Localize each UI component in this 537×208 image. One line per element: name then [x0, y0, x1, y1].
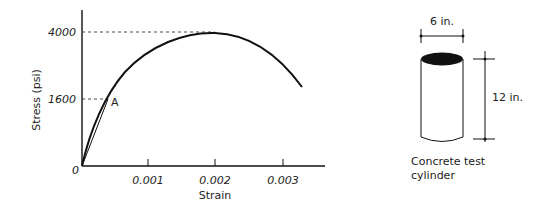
caption-line-2: cylinder — [411, 169, 455, 182]
x-tick-label-0.001: 0.001 — [132, 174, 164, 187]
y-axis-label: Stress (psi) — [30, 69, 43, 131]
y-tick-label-1600: 1600 — [48, 93, 76, 106]
concrete-cylinder-diagram: 6 in. 12 in. Concrete test cylinder — [411, 15, 523, 182]
width-label: 6 in. — [430, 15, 454, 28]
y-tick-label-4000: 4000 — [48, 26, 76, 39]
x-tick-label-0.002: 0.002 — [199, 174, 231, 187]
x-tick-label-0.003: 0.003 — [267, 174, 299, 187]
origin-label: 0 — [72, 164, 79, 177]
x-axis-label: Strain — [199, 189, 232, 202]
point-a-label: A — [111, 96, 119, 109]
caption-line-1: Concrete test — [411, 155, 486, 168]
figure: 4000 1600 0 0.001 0.002 0.003 A Strain S… — [0, 0, 537, 208]
secant-line — [82, 99, 108, 166]
height-label: 12 in. — [492, 91, 523, 104]
cylinder-top — [421, 53, 463, 66]
